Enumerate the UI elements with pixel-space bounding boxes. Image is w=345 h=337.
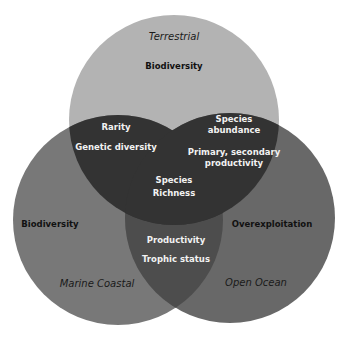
marine-coastal-label: Biodiversity <box>21 219 78 230</box>
open-ocean-label: Overexploitation <box>232 219 312 230</box>
overlap-label-productivity-primary-secondary: Primary, secondary productivity <box>188 147 281 168</box>
terrestrial-label: Biodiversity <box>145 61 202 72</box>
set-name-marine-coastal: Marine Coastal <box>60 278 135 291</box>
set-name-open-ocean: Open Ocean <box>225 277 287 290</box>
venn-diagram <box>0 0 345 337</box>
overlap-label-trophic-status: Trophic status <box>142 254 210 265</box>
overlap-label-species-abundance: Species abundance <box>208 114 261 135</box>
center-label-species-richness: Species Richness <box>153 174 195 200</box>
overlap-label-productivity: Productivity <box>147 235 205 246</box>
set-name-terrestrial: Terrestrial <box>149 31 199 44</box>
overlap-label-rarity: Rarity <box>102 122 131 133</box>
overlap-label-genetic-diversity: Genetic diversity <box>75 142 157 153</box>
